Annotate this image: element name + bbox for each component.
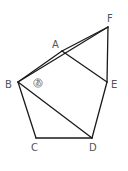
edge-ae — [62, 51, 107, 82]
edge-ed — [92, 82, 107, 138]
vertex-label-group: A B C D E F — [5, 13, 117, 153]
edge-fe — [107, 27, 108, 82]
geometry-diagram: A B C D E F あ — [0, 0, 128, 171]
vertex-label-e: E — [111, 79, 117, 90]
vertex-label-c: C — [31, 142, 38, 153]
vertex-label-f: F — [107, 13, 113, 24]
edge-cb — [18, 82, 36, 138]
edge-bd — [18, 82, 92, 138]
edge-af — [62, 27, 108, 51]
vertex-label-a: A — [52, 39, 59, 50]
vertex-label-d: D — [89, 142, 97, 153]
edge-group — [18, 27, 108, 138]
angle-marker: あ — [34, 79, 42, 88]
vertex-label-b: B — [5, 79, 12, 90]
angle-marker-text: あ — [35, 79, 42, 87]
edge-ba — [18, 51, 62, 82]
